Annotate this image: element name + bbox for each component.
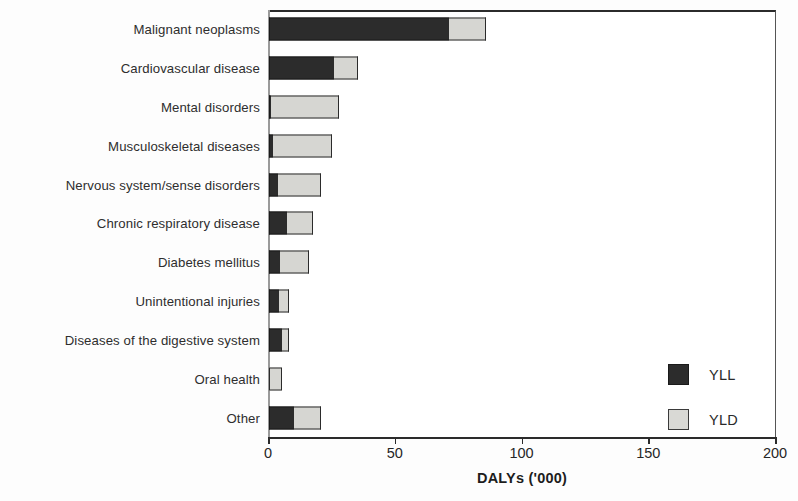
bar-segment-yld[interactable] <box>279 290 289 313</box>
bar-segment-yld[interactable] <box>282 328 289 351</box>
bar-segment-yld[interactable] <box>287 212 313 235</box>
bar-row: Mental disorders <box>0 88 798 127</box>
x-axis-tick-label: 200 <box>763 445 787 461</box>
x-axis-title: DALYs ('000) <box>268 470 776 486</box>
x-axis-tick <box>648 437 650 444</box>
stacked-bar[interactable] <box>269 173 321 196</box>
bar-segment-yld[interactable] <box>449 18 486 41</box>
bar-segment-yld[interactable] <box>334 57 358 80</box>
category-label: Diabetes mellitus <box>158 255 260 270</box>
bar-segment-yld[interactable] <box>269 367 282 390</box>
category-label: Oral health <box>194 371 260 386</box>
bar-row: Diabetes mellitus <box>0 243 798 282</box>
bar-row: Nervous system/sense disorders <box>0 165 798 204</box>
stacked-bar[interactable] <box>269 96 339 119</box>
legend-swatch-yld <box>668 409 689 430</box>
x-axis-tick-label: 50 <box>387 445 403 461</box>
bar-segment-yld[interactable] <box>280 251 309 274</box>
legend-label: YLL <box>709 367 736 383</box>
category-label: Malignant neoplasms <box>133 22 260 37</box>
bar-segment-yld[interactable] <box>271 96 339 119</box>
bar-segment-yll[interactable] <box>269 57 334 80</box>
bar-row: Chronic respiratory disease <box>0 204 798 243</box>
x-axis-tick <box>522 437 524 444</box>
category-label: Chronic respiratory disease <box>97 216 260 231</box>
legend-label: YLD <box>709 412 738 428</box>
bar-segment-yll[interactable] <box>269 173 278 196</box>
bar-segment-yll[interactable] <box>269 212 287 235</box>
stacked-bar[interactable] <box>269 212 313 235</box>
stacked-bar[interactable] <box>269 290 289 313</box>
bar-segment-yll[interactable] <box>269 406 294 429</box>
category-label: Musculoskeletal diseases <box>108 138 260 153</box>
category-label: Other <box>227 410 260 425</box>
stacked-bar[interactable] <box>269 18 486 41</box>
chart-figure: Malignant neoplasmsCardiovascular diseas… <box>0 0 798 501</box>
x-axis-tick <box>268 437 270 444</box>
stacked-bar[interactable] <box>269 406 321 429</box>
bar-segment-yld[interactable] <box>294 406 321 429</box>
bar-row: Musculoskeletal diseases <box>0 126 798 165</box>
bar-row: Cardiovascular disease <box>0 49 798 88</box>
category-label: Nervous system/sense disorders <box>66 177 260 192</box>
x-axis-tick-label: 150 <box>636 445 660 461</box>
x-axis-tick-label: 100 <box>509 445 533 461</box>
x-axis-tick <box>775 437 777 444</box>
bar-segment-yll[interactable] <box>269 290 279 313</box>
legend-swatch-yll <box>668 364 689 385</box>
stacked-bar[interactable] <box>269 134 332 157</box>
chart-legend: YLLYLD <box>668 352 738 442</box>
bar-segment-yld[interactable] <box>278 173 321 196</box>
stacked-bar[interactable] <box>269 251 309 274</box>
category-label: Mental disorders <box>161 100 260 115</box>
bar-segment-yll[interactable] <box>269 328 282 351</box>
category-label: Unintentional injuries <box>135 294 260 309</box>
x-axis-tick <box>395 437 397 444</box>
bar-row: Malignant neoplasms <box>0 10 798 49</box>
stacked-bar[interactable] <box>269 328 289 351</box>
x-axis-tick-label: 0 <box>264 445 272 461</box>
bar-segment-yll[interactable] <box>269 251 280 274</box>
category-label: Cardiovascular disease <box>121 61 260 76</box>
bar-row: Unintentional injuries <box>0 282 798 321</box>
stacked-bar[interactable] <box>269 367 282 390</box>
bar-segment-yld[interactable] <box>273 134 332 157</box>
bar-segment-yll[interactable] <box>269 18 449 41</box>
legend-item[interactable]: YLL <box>668 352 738 397</box>
stacked-bar[interactable] <box>269 57 358 80</box>
category-label: Diseases of the digestive system <box>65 332 260 347</box>
legend-item[interactable]: YLD <box>668 397 738 442</box>
